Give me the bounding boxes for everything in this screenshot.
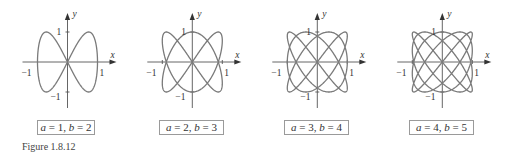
a-value: 1 <box>58 121 64 133</box>
x-arrow-icon <box>234 59 241 64</box>
plot-2: −111−1xy <box>146 9 241 108</box>
param-label-1: a = 1, b = 2 <box>37 120 95 135</box>
param-label-2: a = 2, b = 3 <box>159 120 224 135</box>
b-value: 5 <box>461 121 467 133</box>
x-tick-label-neg1: −1 <box>396 68 406 78</box>
b-symbol: b <box>194 121 200 133</box>
y-arrow-icon <box>65 13 70 20</box>
b-symbol: b <box>319 121 325 133</box>
x-tick-label-1: 1 <box>474 68 479 78</box>
y-arrow-icon <box>440 13 445 20</box>
a-symbol: a <box>416 121 422 133</box>
a-symbol: a <box>41 121 47 133</box>
y-tick-label-neg1: −1 <box>425 92 435 102</box>
x-tick-label-1: 1 <box>100 68 105 78</box>
y-tick-label-neg1: −1 <box>300 92 310 102</box>
x-axis-label: x <box>234 50 240 60</box>
figure: −111−1xy −111−1xy −111−1xy −111−1xy a = … <box>0 0 516 154</box>
a-value: 4 <box>433 121 439 133</box>
plot-4: −111−1xy <box>396 9 491 108</box>
param-label-3: a = 3, b = 4 <box>284 120 349 135</box>
y-axis-label: y <box>321 9 327 19</box>
b-symbol: b <box>444 121 450 133</box>
b-value: 4 <box>336 121 342 133</box>
a-value: 2 <box>183 121 189 133</box>
b-value: 3 <box>211 121 217 133</box>
x-arrow-icon <box>110 59 117 64</box>
y-axis-label: y <box>72 9 78 19</box>
x-axis-label: x <box>110 50 116 60</box>
x-tick-label-neg1: −1 <box>146 68 156 78</box>
plot-1: −111−1xy <box>22 9 117 108</box>
y-axis-label: y <box>446 9 452 19</box>
y-tick-label-1: 1 <box>431 27 436 37</box>
y-tick-label-1: 1 <box>181 27 186 37</box>
figure-caption: Figure 1.8.12 <box>22 141 76 152</box>
y-tick-label-1: 1 <box>57 27 62 37</box>
y-arrow-icon <box>315 13 320 20</box>
x-tick-label-neg1: −1 <box>22 68 32 78</box>
x-axis-label: x <box>359 50 365 60</box>
y-axis-label: y <box>196 9 202 19</box>
x-tick-label-neg1: −1 <box>271 68 281 78</box>
y-arrow-icon <box>190 13 195 20</box>
b-value: 2 <box>86 121 92 133</box>
a-symbol: a <box>166 121 172 133</box>
x-arrow-icon <box>484 59 491 64</box>
x-tick-label-1: 1 <box>224 68 229 78</box>
a-symbol: a <box>291 121 297 133</box>
plot-3: −111−1xy <box>271 9 366 108</box>
param-label-4: a = 4, b = 5 <box>409 120 474 135</box>
x-axis-label: x <box>484 50 490 60</box>
y-tick-label-1: 1 <box>306 27 311 37</box>
y-tick-label-neg1: −1 <box>175 92 185 102</box>
b-symbol: b <box>69 121 75 133</box>
a-value: 3 <box>308 121 314 133</box>
y-tick-label-neg1: −1 <box>51 92 61 102</box>
x-tick-label-1: 1 <box>349 68 354 78</box>
x-arrow-icon <box>359 59 366 64</box>
